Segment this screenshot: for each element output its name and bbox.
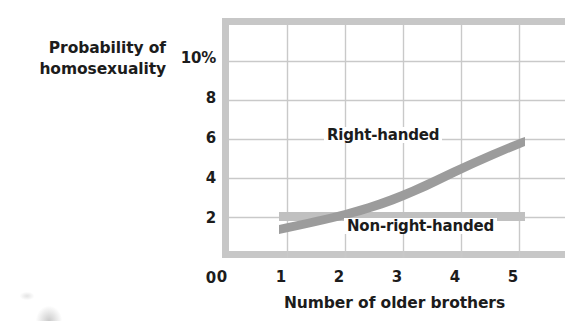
x-tick-label-2: 2 xyxy=(326,270,352,285)
series-label-right-handed: Right-handed xyxy=(324,127,442,143)
y-tick-label-4: 4 xyxy=(164,171,216,186)
x-tick-label-0: 0 xyxy=(209,270,235,285)
y-tick-label-10: 10% xyxy=(164,51,216,66)
x-axis-title: Number of older brothers xyxy=(222,294,567,312)
x-tick-label-1: 1 xyxy=(268,270,294,285)
y-axis-title: Probability of homosexuality xyxy=(8,38,166,80)
scan-artifact-secondary xyxy=(20,292,34,300)
y-tick-label-2: 2 xyxy=(164,211,216,226)
x-tick-label-4: 4 xyxy=(442,270,468,285)
x-tick-label-5: 5 xyxy=(500,270,526,285)
y-tick-label-8: 8 xyxy=(164,91,216,106)
x-tick-label-3: 3 xyxy=(384,270,410,285)
y-tick-label-6: 6 xyxy=(164,131,216,146)
scan-artifact xyxy=(36,306,62,321)
series-label-non-right-handed: Non-right-handed xyxy=(344,218,497,234)
